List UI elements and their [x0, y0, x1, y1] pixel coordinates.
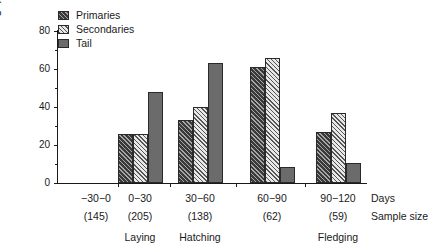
bar-group	[178, 63, 223, 183]
bar-group	[316, 113, 361, 183]
bar-primaries	[118, 134, 133, 183]
bar-secondaries	[193, 107, 208, 183]
bar-tail	[346, 163, 361, 183]
y-tick-label: 40	[24, 102, 50, 112]
y-tick-label: 80	[24, 26, 50, 36]
sample-size-label: (59)	[298, 211, 378, 222]
days-row-label: Days	[371, 193, 395, 204]
bar-primaries	[316, 132, 331, 183]
moulting-bar-chart: Primaries Secondaries Tail 020406080 Mou…	[0, 0, 437, 252]
legend-item-primaries: Primaries	[58, 9, 134, 22]
plot-area	[58, 31, 366, 183]
dark-hatch-swatch	[58, 11, 69, 20]
x-tick	[305, 183, 306, 187]
bar-tail	[148, 92, 163, 183]
x-tick	[236, 183, 237, 187]
bar-group	[250, 58, 295, 183]
bar-secondaries	[133, 134, 148, 183]
stage-label: Fledging	[298, 232, 378, 243]
bar-tail	[208, 63, 223, 183]
sample-size-row-label: Sample size	[371, 211, 428, 222]
y-tick-label: 20	[24, 140, 50, 150]
x-axis-line	[57, 183, 367, 184]
stage-label: Hatching	[160, 232, 240, 243]
y-tick-major	[54, 183, 58, 184]
y-tick-label: 60	[24, 64, 50, 74]
bar-secondaries	[331, 113, 346, 183]
legend-item-label: Primaries	[76, 10, 120, 21]
y-axis-label: Moulting (%)	[0, 0, 1, 60]
x-tick	[170, 183, 171, 187]
bar-secondaries	[265, 58, 280, 183]
sample-size-label: (138)	[160, 211, 240, 222]
x-category-label: 90−120	[298, 193, 378, 204]
bar-primaries	[178, 120, 193, 183]
x-tick	[118, 183, 119, 187]
x-category-label: 30−60	[160, 193, 240, 204]
bar-primaries	[250, 67, 265, 183]
bar-tail	[280, 167, 295, 183]
y-tick-label: 0	[24, 178, 50, 188]
bar-group	[118, 92, 163, 183]
page-edge-artifact	[0, 128, 5, 238]
